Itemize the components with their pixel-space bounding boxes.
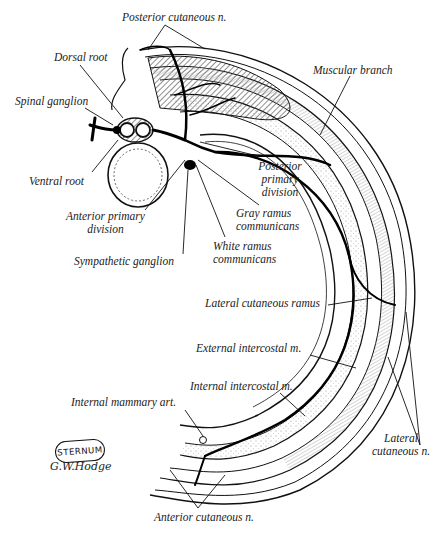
label-internal-mammary-art: Internal mammary art. xyxy=(71,396,176,409)
label-anterior-primary-division-line2: division xyxy=(58,223,153,236)
label-gray-ramus-line1: Gray ramus xyxy=(236,207,299,220)
label-posterior-primary-division: Posterior primary division xyxy=(250,160,310,199)
intercostal-nerve-diagram: Posterior cutaneous n. Dorsal root Muscu… xyxy=(0,0,447,533)
label-lateral-cutaneous-line1: Lateral xyxy=(366,432,436,445)
label-ventral-root: Ventral root xyxy=(29,175,84,188)
label-anterior-primary-division: Anterior primary division xyxy=(58,210,153,236)
label-white-ramus-line2: communicans xyxy=(213,253,276,266)
label-posterior-cutaneous-n: Posterior cutaneous n. xyxy=(122,11,226,24)
sympathetic-ganglion-shape xyxy=(184,160,196,170)
label-lateral-cutaneous-ramus: Lateral cutaneous ramus xyxy=(205,297,320,310)
label-sympathetic-ganglion: Sympathetic ganglion xyxy=(74,255,174,268)
label-muscular-branch: Muscular branch xyxy=(313,64,393,77)
internal-mammary-artery-shape xyxy=(200,437,207,444)
artist-signature: G.W.Hodge xyxy=(50,460,112,473)
label-posterior-primary-division-line3: division xyxy=(250,186,310,199)
label-external-intercostal-m: External intercostal m. xyxy=(196,342,301,355)
label-posterior-primary-division-line2: primary xyxy=(250,173,310,186)
label-gray-ramus-communicans: Gray ramus communicans xyxy=(236,207,299,233)
label-spinal-ganglion: Spinal ganglion xyxy=(15,95,88,108)
label-white-ramus-line1: White ramus xyxy=(213,240,276,253)
label-internal-intercostal-m: Internal intercostal m. xyxy=(190,380,293,393)
label-gray-ramus-line2: communicans xyxy=(236,220,299,233)
label-posterior-primary-division-line1: Posterior xyxy=(250,160,310,173)
label-anterior-cutaneous-n: Anterior cutaneous n. xyxy=(154,511,254,524)
label-white-ramus-communicans: White ramus communicans xyxy=(213,240,276,266)
label-lateral-cutaneous-line2: cutaneous n. xyxy=(366,445,436,458)
label-dorsal-root: Dorsal root xyxy=(54,51,108,64)
label-lateral-cutaneous-n: Lateral cutaneous n. xyxy=(366,432,436,458)
label-anterior-primary-division-line1: Anterior primary xyxy=(58,210,153,223)
spinal-ganglion-shape xyxy=(113,126,121,134)
